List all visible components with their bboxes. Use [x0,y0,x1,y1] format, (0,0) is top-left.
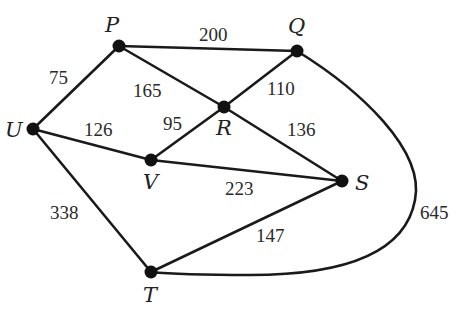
node-P [113,40,126,53]
weight-V-S: 223 [225,178,254,199]
label-Q: Q [288,14,305,38]
weight-P-Q: 200 [199,24,228,45]
nodes [27,40,349,279]
node-Q [291,45,304,58]
weight-R-S: 136 [287,119,316,140]
node-T [145,266,158,279]
label-R: R [215,116,232,140]
weight-Q-R: 110 [267,78,295,99]
label-V: V [143,170,160,194]
node-S [336,175,349,188]
weight-U-P: 75 [49,67,68,88]
edge-U-T [33,129,151,272]
weight-U-V: 126 [84,119,113,140]
edge-V-R [151,107,224,160]
node-U [27,123,40,136]
weight-V-R: 95 [163,113,182,134]
weight-Q-T: 645 [420,202,449,223]
edge-P-Q [119,46,297,51]
label-U: U [5,118,24,142]
label-S: S [355,171,369,195]
node-R [218,101,231,114]
edge-U-P [33,46,119,129]
label-P: P [104,13,120,37]
node-V [145,154,158,167]
edges [33,46,416,275]
label-T: T [143,283,159,307]
weighted-graph-diagram: 200 75 165 110 95 126 136 223 338 147 64… [0,0,466,310]
weight-T-S: 147 [256,225,285,246]
weight-P-R: 165 [133,80,162,101]
weight-U-T: 338 [50,202,79,223]
